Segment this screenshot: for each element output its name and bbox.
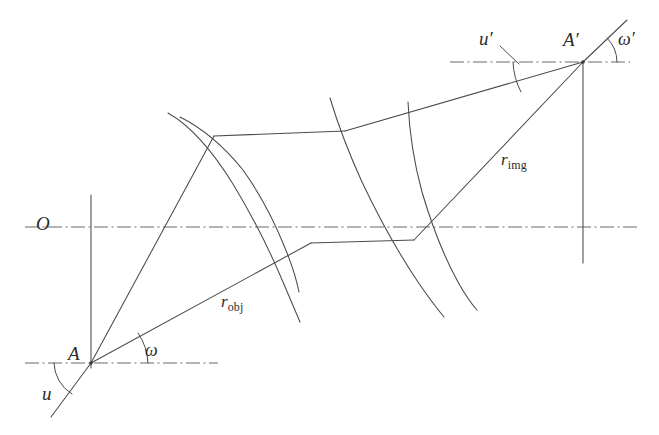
point-marker-A [89, 361, 93, 365]
label-angle-u: u [42, 384, 52, 403]
label-angle-omega-prime: ω′ [618, 30, 635, 48]
label-object-point-A: A [68, 344, 80, 363]
label-axis-origin-O: O [36, 214, 50, 233]
label-r-img-base: r [501, 150, 508, 169]
label-r-obj-base: r [221, 292, 228, 311]
ray-lens-lower-chord [311, 240, 414, 243]
label-object-distance-r-obj: robj [221, 293, 244, 314]
ray-paths-group [51, 20, 627, 417]
u-angle-arc [54, 363, 72, 394]
lens-surface-2-arc [168, 113, 300, 322]
angle-arcs-group [54, 38, 617, 394]
ray-upper-image-side [345, 62, 583, 131]
point-markers-group [89, 60, 585, 365]
label-image-point-A-prime: A′ [563, 30, 579, 49]
label-angle-u-prime: u′ [479, 29, 493, 48]
optical-diagram-figure: A A′ O u u′ ω ω′ robj rimg [0, 0, 659, 435]
ordinate-group [91, 62, 583, 368]
leader-lines-group [500, 46, 519, 64]
label-r-img-subscript: img [508, 158, 527, 172]
lens-surface-4-arc [408, 102, 477, 310]
ray-aperture-extension-object [51, 363, 91, 417]
u-prime-leader-line [500, 46, 519, 64]
label-image-distance-r-img: rimg [501, 151, 527, 172]
omega-prime-angle-arc [607, 38, 617, 62]
point-marker-A-prime [581, 60, 585, 64]
label-r-obj-subscript: obj [228, 300, 244, 314]
diagram-canvas [0, 0, 659, 435]
u-prime-angle-arc [513, 62, 521, 92]
ray-chief-image-side [414, 62, 583, 240]
lens-surface-1-arc [180, 117, 299, 292]
label-angle-omega: ω [145, 341, 158, 359]
ray-lens-upper-chord [214, 131, 345, 136]
